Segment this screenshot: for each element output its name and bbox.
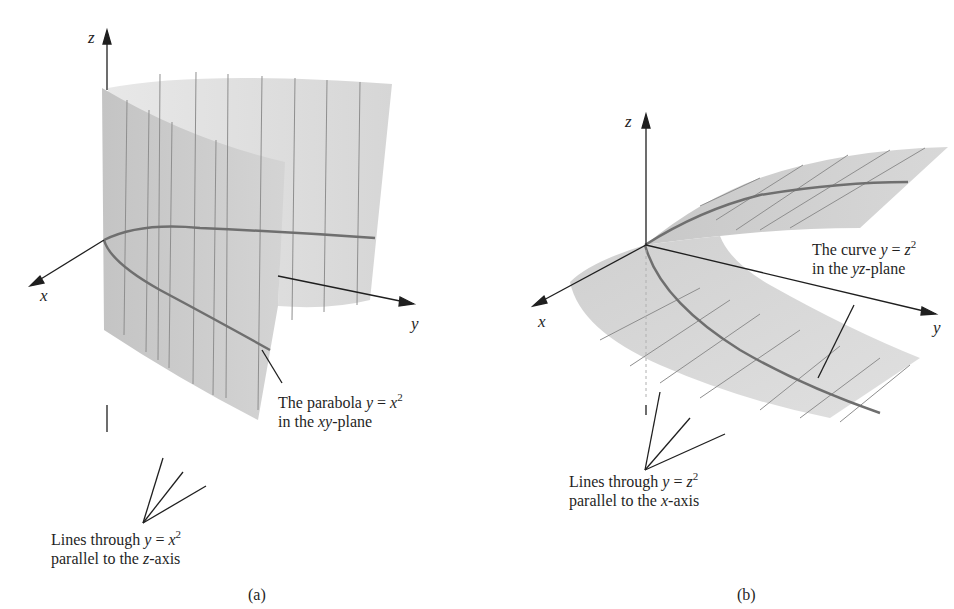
callout-eq: = xyxy=(669,473,686,490)
caption-a: (a) xyxy=(248,586,266,604)
panel-b-z-axis-label: z xyxy=(625,112,632,132)
panel-b-surface xyxy=(570,147,948,422)
callout-var: yz xyxy=(852,260,865,277)
panel-b-y-axis-label: y xyxy=(933,318,941,338)
callout-var: xy xyxy=(318,413,332,430)
callout-text: -plane xyxy=(332,413,372,430)
callout-eq: = xyxy=(151,531,168,548)
callout-text: parallel to the xyxy=(569,492,661,509)
callout-base: x xyxy=(168,531,175,548)
callout-text: The parabola xyxy=(278,394,366,411)
curve-callout: The curve y = z2 in the yz-plane xyxy=(812,240,916,278)
callout-exp: 2 xyxy=(911,238,917,250)
callout-text: The curve xyxy=(812,241,880,258)
callout-var: y xyxy=(366,394,373,411)
callout-var: x xyxy=(661,492,668,509)
callout-text: parallel to the xyxy=(51,550,143,567)
callout-exp: 2 xyxy=(693,470,699,482)
callout-exp: 2 xyxy=(397,391,403,403)
callout-text: Lines through xyxy=(569,473,662,490)
callout-text: -plane xyxy=(865,260,905,277)
parabola-callout: The parabola y = x2 in the xy-plane xyxy=(278,393,403,431)
figure-canvas xyxy=(0,0,954,609)
panel-a-y-axis-label: y xyxy=(411,314,419,334)
callout-eq: = xyxy=(373,394,390,411)
callout-var: y xyxy=(880,241,887,258)
panel-a-x-axis-label: x xyxy=(40,286,48,306)
callout-text: in the xyxy=(278,413,318,430)
rulings-callout-a: Lines through y = x2 parallel to the z-a… xyxy=(51,530,181,568)
caption-b: (b) xyxy=(737,586,756,604)
rulings-callout-b: Lines through y = z2 parallel to the x-a… xyxy=(569,472,699,510)
callout-text: Lines through xyxy=(51,531,144,548)
callout-text: in the xyxy=(812,260,852,277)
callout-exp: 2 xyxy=(176,528,182,540)
panel-a-surface xyxy=(102,72,392,420)
panel-b-x-axis-label: x xyxy=(538,312,546,332)
callout-eq: = xyxy=(888,241,905,258)
callout-text: -axis xyxy=(668,492,699,509)
panel-a-z-axis-label: z xyxy=(88,28,95,48)
callout-text: -axis xyxy=(149,550,180,567)
